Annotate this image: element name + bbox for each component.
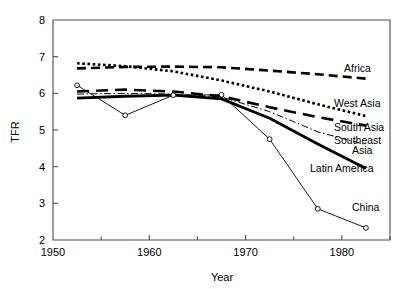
y-tick-label: 3 <box>39 197 45 209</box>
x-tick-label: 1980 <box>330 246 354 258</box>
y-axis-title: TFR <box>9 121 21 142</box>
data-series-group <box>77 63 366 228</box>
chart-figure: 2345678 1950196019701980 AfricaWest Asia… <box>0 0 405 289</box>
x-tick-label: 1970 <box>233 246 257 258</box>
data-point-marker <box>315 206 320 211</box>
series-label-south-asia: South Asia <box>334 121 384 133</box>
y-tick-label: 8 <box>39 14 45 26</box>
data-point-marker <box>219 92 224 97</box>
data-point-marker <box>364 226 369 231</box>
y-tick-label: 2 <box>39 234 45 246</box>
x-axis-tick-labels: 1950196019701980 <box>41 246 354 258</box>
data-point-marker <box>123 113 128 118</box>
y-tick-label: 6 <box>39 87 45 99</box>
y-tick-label: 4 <box>39 161 45 173</box>
series-label-africa: Africa <box>344 62 371 74</box>
tfr-line-chart: 2345678 1950196019701980 AfricaWest Asia… <box>0 0 405 289</box>
data-point-marker <box>171 93 176 98</box>
series-label-latin-america: Latin America <box>310 162 374 174</box>
x-axis-title: Year <box>211 271 234 283</box>
x-tick-label: 1950 <box>41 246 65 258</box>
data-point-marker <box>267 137 272 142</box>
series-inline-labels: AfricaWest AsiaSouth AsiaSoutheastAsiaLa… <box>310 62 384 213</box>
y-tick-label: 5 <box>39 124 45 136</box>
x-tick-label: 1960 <box>137 246 161 258</box>
y-tick-label: 7 <box>39 51 45 63</box>
series-label-china: China <box>352 201 380 213</box>
data-point-marker <box>75 83 80 88</box>
x-axis-ticks <box>101 235 390 240</box>
y-axis-tick-labels: 2345678 <box>39 14 45 246</box>
y-axis-ticks <box>53 57 58 204</box>
series-label-southeast-asia: Asia <box>352 144 373 156</box>
series-line-africa <box>77 67 366 79</box>
series-label-west-asia: West Asia <box>334 97 381 109</box>
